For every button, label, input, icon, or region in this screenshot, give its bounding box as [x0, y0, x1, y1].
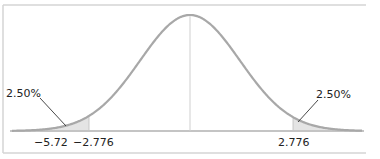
left-pointer-line [40, 98, 66, 126]
t-distribution-chart: 2.50% 2.50% −5.72 −2.776 2.776 [0, 0, 380, 159]
right-pointer-line [298, 100, 318, 122]
right-area-label: 2.50% [316, 88, 351, 101]
density-curve [12, 15, 362, 131]
tick-label-pos-2-776: 2.776 [278, 136, 310, 149]
tick-label-neg-5-72: −5.72 [34, 136, 68, 149]
left-area-label: 2.50% [6, 87, 41, 100]
tick-label-neg-2-776: −2.776 [73, 136, 114, 149]
